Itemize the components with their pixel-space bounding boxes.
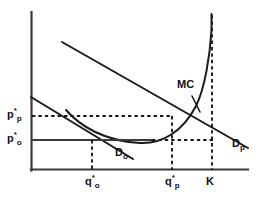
quantity-peak-subscript: p: [175, 181, 180, 190]
price-offpeak-subscript: o: [17, 138, 22, 147]
quantity-offpeak-label: q*o: [85, 176, 100, 187]
quantity-peak-label: q*p: [165, 176, 180, 187]
price-offpeak-label: p*o: [7, 133, 22, 144]
price-peak-label: p*p: [7, 109, 22, 120]
demand-peak-label: Dp: [232, 138, 245, 149]
economics-diagram: p*p p*o q*o q*p K MC Dp Do: [0, 0, 262, 198]
demand-offpeak-subscript: o: [123, 152, 128, 161]
demand-peak-subscript: p: [240, 143, 245, 152]
diagram-canvas: [0, 0, 262, 198]
marginal-cost-label: MC: [177, 79, 194, 90]
capacity-label: K: [206, 176, 214, 187]
demand-offpeak-label: Do: [115, 147, 128, 158]
price-peak-subscript: p: [17, 114, 22, 123]
quantity-offpeak-subscript: o: [95, 181, 100, 190]
